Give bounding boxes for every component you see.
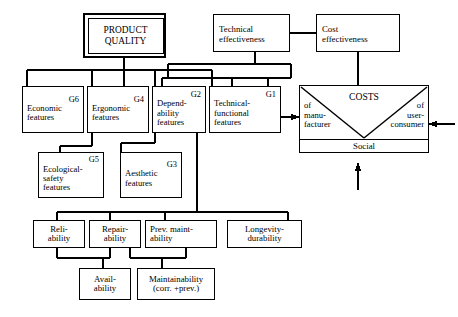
costs-manufacturer-label: of manu- facturer <box>304 101 331 130</box>
node-longevity-durability[interactable]: Longevity- durability <box>227 220 302 248</box>
costs-triangle-area: COSTS of manu- facturer of user- consume… <box>300 86 428 140</box>
node-reliability[interactable]: Reli- ability <box>33 220 85 248</box>
availability-label: Avail- ability <box>94 275 116 294</box>
prev-maintability-label: Prev. maint- ability <box>150 225 193 244</box>
node-technical-effectiveness[interactable]: Technical effectiveness <box>213 14 290 52</box>
ergonomic-features-label: Ergonomic features <box>92 104 145 123</box>
diagram-canvas: PRODUCT QUALITY Technical effectiveness … <box>0 0 458 317</box>
costs-social-label: Social <box>300 140 428 151</box>
node-aesthetic-features[interactable]: G3 Aesthetic features <box>120 152 182 198</box>
node-ergonomic-features[interactable]: G4 Ergonomic features <box>87 86 149 133</box>
node-repairability[interactable]: Repair- ability <box>89 220 141 248</box>
node-economic-features[interactable]: G6 Economic features <box>22 86 84 133</box>
economic-features-label: Economic features <box>27 104 80 123</box>
technical-functional-features-label: Technical- functional features <box>214 99 277 127</box>
technical-effectiveness-label: Technical effectiveness <box>219 25 265 44</box>
dependability-features-label: Depend- ability features <box>157 99 202 127</box>
node-technical-functional-features[interactable]: G1 Technical- functional features <box>209 86 281 133</box>
reliability-label: Reli- ability <box>48 225 70 244</box>
node-availability[interactable]: Avail- ability <box>79 268 131 300</box>
node-prev-maintability[interactable]: Prev. maint- ability <box>145 220 217 248</box>
ecological-safety-features-label: Ecological- safety features <box>43 165 100 193</box>
longevity-durability-label: Longevity- durability <box>245 225 284 244</box>
repairability-label: Repair- ability <box>102 225 128 244</box>
maintainability-label: Maintainability (corr. +prev.) <box>149 275 203 294</box>
node-ecological-safety-features[interactable]: G5 Ecological- safety features <box>38 152 104 198</box>
node-product-quality[interactable]: PRODUCT QUALITY <box>83 13 166 58</box>
costs-user-consumer-label: of user- consumer <box>391 101 424 130</box>
node-costs[interactable]: COSTS of manu- facturer of user- consume… <box>299 85 429 153</box>
aesthetic-features-label: Aesthetic features <box>125 169 178 188</box>
node-dependability-features[interactable]: G2 Depend- ability features <box>152 86 206 133</box>
cost-effectiveness-label: Cost effectiveness <box>322 25 368 44</box>
product-quality-label: PRODUCT QUALITY <box>88 18 164 54</box>
node-maintainability[interactable]: Maintainability (corr. +prev.) <box>137 268 215 300</box>
node-cost-effectiveness[interactable]: Cost effectiveness <box>316 14 400 52</box>
